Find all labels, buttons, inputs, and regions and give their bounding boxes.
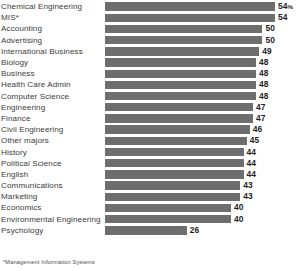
bar-fill: [105, 70, 256, 78]
bar-zone: 40: [105, 214, 305, 225]
bar-zone: 48: [105, 79, 305, 90]
bar-track: 50: [105, 35, 305, 46]
bar-track: 54%: [105, 1, 305, 12]
bar-track: 43: [105, 180, 305, 191]
bar-category-label: Other majors: [0, 136, 105, 145]
bar-value-label: 45: [250, 136, 260, 145]
bar-zone: 50: [105, 35, 305, 46]
chart-row: Advertising50: [0, 35, 305, 46]
bar-value-label: 48: [259, 80, 269, 89]
bar-category-label: Communications: [0, 181, 105, 190]
bar-value-label: 49: [262, 47, 272, 56]
chart-row: Biology48: [0, 57, 305, 68]
bar-fill: [105, 36, 262, 44]
bar-track: 45: [105, 135, 305, 146]
bar-fill: [105, 125, 250, 133]
bar-value-label: 46: [253, 125, 263, 134]
bar-category-label: Environmental Engineering: [0, 215, 105, 224]
bar-zone: 44: [105, 146, 305, 157]
bar-fill: [105, 2, 275, 10]
bar-zone: 48: [105, 57, 305, 68]
bar-fill: [105, 215, 231, 223]
bar-category-label: History: [0, 148, 105, 157]
chart-row: Computer Science48: [0, 91, 305, 102]
bar-fill: [105, 14, 275, 22]
bar-fill: [105, 25, 262, 33]
bar-value-label: 47: [256, 114, 266, 123]
bar-zone: 46: [105, 124, 305, 135]
bar-zone: 48: [105, 68, 305, 79]
chart-row: Engineering47: [0, 102, 305, 113]
bar-fill: [105, 193, 240, 201]
chart-plot-area: Chemical Engineering54%MIS*54Accounting5…: [0, 0, 305, 236]
chart-row: Marketing43: [0, 191, 305, 202]
bar-category-label: Business: [0, 69, 105, 78]
bar-fill: [105, 137, 247, 145]
chart-footnote: *Management Information Systems: [3, 259, 95, 266]
bar-track: 44: [105, 158, 305, 169]
bar-fill: [105, 58, 256, 66]
chart-row: Chemical Engineering54%: [0, 1, 305, 12]
bar-category-label: Health Care Admin: [0, 80, 105, 89]
chart-row: Communications43: [0, 180, 305, 191]
chart-row: History44: [0, 146, 305, 157]
bar-zone: 48: [105, 91, 305, 102]
bar-value-label: 26: [190, 226, 200, 235]
bar-track: 26: [105, 225, 305, 236]
bar-fill: [105, 114, 253, 122]
chart-row: Health Care Admin48: [0, 79, 305, 90]
bar-fill: [105, 170, 244, 178]
bar-category-label: Advertising: [0, 36, 105, 45]
chart-row: Accounting50: [0, 23, 305, 34]
bar-zone: 47: [105, 113, 305, 124]
bar-value-label: 44: [247, 159, 257, 168]
bar-zone: 47: [105, 102, 305, 113]
bar-fill: [105, 181, 240, 189]
chart-row: Other majors45: [0, 135, 305, 146]
bar-fill: [105, 92, 256, 100]
bar-track: 47: [105, 113, 305, 124]
bar-value-label: 48: [259, 92, 269, 101]
bar-fill: [105, 148, 244, 156]
bar-chart: Chemical Engineering54%MIS*54Accounting5…: [0, 0, 305, 271]
bar-fill: [105, 226, 187, 234]
chart-row: English44: [0, 169, 305, 180]
chart-row: Environmental Engineering40: [0, 214, 305, 225]
bar-zone: 54%: [105, 1, 305, 12]
bar-category-label: Chemical Engineering: [0, 2, 105, 11]
bar-category-label: Engineering: [0, 103, 105, 112]
bar-category-label: Psychology: [0, 226, 105, 235]
bar-category-label: Civil Engineering: [0, 125, 105, 134]
bar-zone: 43: [105, 180, 305, 191]
chart-row: Psychology26: [0, 225, 305, 236]
bar-track: 46: [105, 124, 305, 135]
bar-zone: 44: [105, 158, 305, 169]
chart-row: MIS*54: [0, 12, 305, 23]
chart-row: Economics40: [0, 202, 305, 213]
bar-value-label: 47: [256, 103, 266, 112]
bar-zone: 45: [105, 135, 305, 146]
bar-track: 47: [105, 102, 305, 113]
chart-row: Civil Engineering46: [0, 124, 305, 135]
bar-category-label: Accounting: [0, 24, 105, 33]
chart-row: Finance47: [0, 113, 305, 124]
bar-value-label: 54: [278, 13, 288, 22]
bar-category-label: MIS*: [0, 13, 105, 22]
bar-category-label: English: [0, 170, 105, 179]
bar-zone: 40: [105, 202, 305, 213]
bar-value-label: 54%: [278, 2, 293, 11]
bar-fill: [105, 159, 244, 167]
bar-zone: 49: [105, 46, 305, 57]
bar-category-label: International Business: [0, 47, 105, 56]
bar-category-label: Political Science: [0, 159, 105, 168]
bar-track: 49: [105, 46, 305, 57]
chart-row: Political Science44: [0, 158, 305, 169]
bar-track: 50: [105, 23, 305, 34]
chart-row: Business48: [0, 68, 305, 79]
bar-track: 48: [105, 91, 305, 102]
bar-track: 44: [105, 169, 305, 180]
bar-fill: [105, 204, 231, 212]
bar-zone: 44: [105, 169, 305, 180]
bar-category-label: Marketing: [0, 192, 105, 201]
bar-track: 44: [105, 146, 305, 157]
